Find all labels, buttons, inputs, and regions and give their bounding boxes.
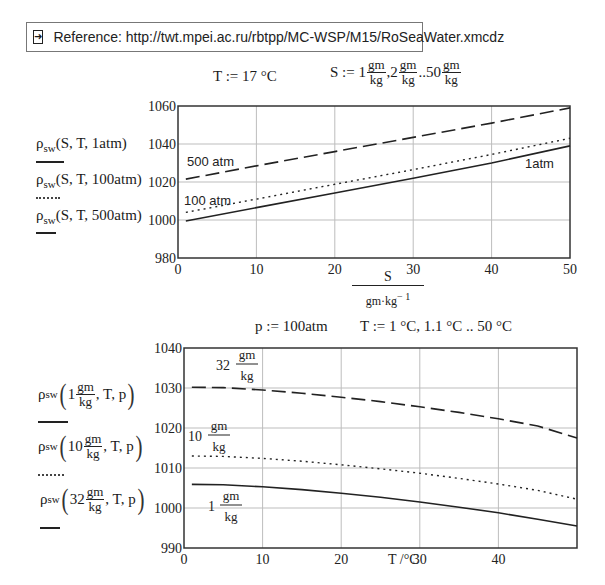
series-annotation-den: kg — [213, 439, 227, 454]
series-annotation-value: 32 — [216, 358, 230, 373]
x-tick-label: 40 — [491, 552, 505, 567]
temperature-density-chart[interactable]: 0102030409901000101010201030104032gmkg10… — [0, 330, 605, 585]
series-annotation-value: 1 — [208, 499, 215, 514]
y-tick-label: 1020 — [148, 175, 176, 190]
series-annotation: 500 atm — [187, 154, 234, 169]
x-tick-label: 20 — [328, 262, 342, 277]
series-annotation: 100 atm — [184, 193, 231, 208]
y-tick-label: 990 — [161, 541, 182, 556]
y-tick-label: 1060 — [148, 99, 176, 114]
y-tick-label: 1030 — [154, 381, 182, 396]
series-line-dotted — [186, 138, 570, 212]
series-annotation-den: kg — [241, 368, 255, 383]
y-tick-label: 1000 — [148, 213, 176, 228]
y-tick-label: 980 — [155, 251, 176, 266]
series-line-dashed — [192, 387, 577, 438]
series-line-solid — [192, 484, 577, 526]
y-tick-label: 1000 — [154, 501, 182, 516]
top-x-axis-label: S gm·kg− 1 — [352, 268, 424, 309]
y-tick-label: 1020 — [154, 421, 182, 436]
y-tick-label: 1010 — [154, 461, 182, 476]
series-line-dotted — [192, 456, 577, 499]
x-tick-label: 20 — [334, 552, 348, 567]
bottom-x-axis-label: T /°C — [388, 552, 419, 567]
series-annotation-value: 10 — [188, 429, 202, 444]
salinity-density-chart[interactable]: 010203040509801000102010401060500 atm100… — [0, 0, 605, 300]
series-annotation-num: gm — [223, 488, 240, 503]
y-tick-label: 1040 — [154, 341, 182, 356]
series-annotation-num: gm — [239, 347, 256, 362]
series-annotation: 1atm — [525, 156, 554, 171]
series-line-solid — [186, 146, 570, 221]
x-tick-label: 50 — [563, 262, 577, 277]
series-annotation-den: kg — [225, 509, 239, 524]
series-annotation-num: gm — [211, 418, 228, 433]
x-tick-label: 10 — [249, 262, 263, 277]
y-tick-label: 1040 — [148, 137, 176, 152]
x-tick-label: 40 — [485, 262, 499, 277]
x-tick-label: 10 — [256, 552, 270, 567]
